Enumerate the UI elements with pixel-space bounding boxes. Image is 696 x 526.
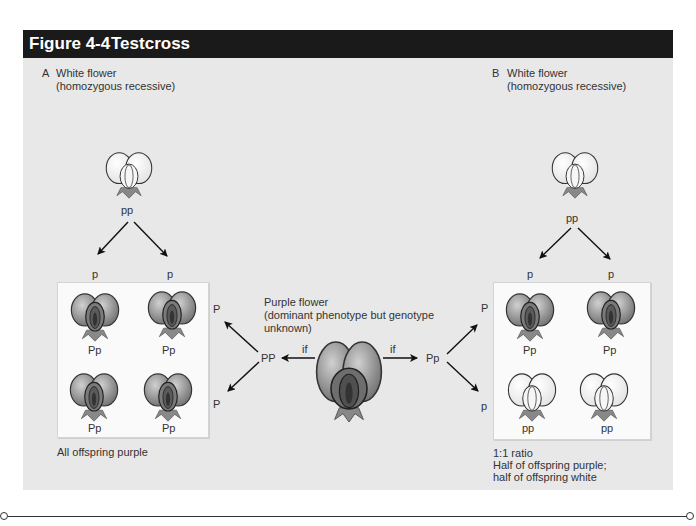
offspring-a-1-flower bbox=[69, 288, 121, 342]
panel-b-gamete-side-1: P bbox=[481, 302, 488, 314]
panel-b-result-3: half of offspring white bbox=[493, 471, 597, 484]
offspring-b-4-genotype: pp bbox=[601, 422, 613, 434]
footer-rule-left-cap bbox=[0, 512, 8, 520]
panel-b-gamete-top-2: p bbox=[608, 268, 614, 280]
center-left-genotype: PP bbox=[261, 352, 276, 364]
center-left-if: if bbox=[302, 343, 308, 355]
panel-b-gamete-side-2: p bbox=[481, 400, 487, 412]
center-right-if: if bbox=[390, 343, 396, 355]
panel-a-gamete-side-2: P bbox=[213, 398, 220, 410]
purple-test-flower bbox=[313, 336, 385, 422]
offspring-b-2-genotype: Pp bbox=[603, 344, 616, 356]
offspring-a-3-genotype: Pp bbox=[88, 422, 101, 434]
center-label-1: Purple flower bbox=[264, 296, 328, 309]
offspring-b-1-genotype: Pp bbox=[523, 344, 536, 356]
offspring-a-1-genotype: Pp bbox=[88, 344, 101, 356]
panel-a-gamete-top-2: p bbox=[167, 268, 173, 280]
offspring-a-2-genotype: Pp bbox=[162, 344, 175, 356]
panel-a-gamete-side-1: P bbox=[213, 303, 220, 315]
panel-a-gamete-top-1: p bbox=[92, 268, 98, 280]
center-label-3: unknown) bbox=[264, 322, 312, 335]
offspring-b-3-genotype: pp bbox=[522, 422, 534, 434]
offspring-b-1-flower bbox=[504, 288, 556, 342]
offspring-a-2-flower bbox=[146, 286, 198, 340]
panel-b-gamete-top-1: p bbox=[527, 268, 533, 280]
offspring-b-2-flower bbox=[585, 286, 637, 340]
footer-rule-right-cap bbox=[686, 512, 694, 520]
offspring-a-4-genotype: Pp bbox=[162, 422, 175, 434]
offspring-b-4-flower bbox=[578, 368, 630, 422]
offspring-b-3-flower bbox=[506, 368, 558, 422]
panel-a-result: All offspring purple bbox=[57, 446, 148, 459]
offspring-a-4-flower bbox=[142, 368, 194, 422]
center-label-2: (dominant phenotype but genotype bbox=[264, 309, 434, 322]
center-right-genotype: Pp bbox=[426, 352, 439, 364]
offspring-a-3-flower bbox=[68, 368, 120, 422]
footer-rule bbox=[8, 516, 688, 517]
